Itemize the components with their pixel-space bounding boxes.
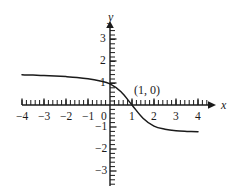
graph-figure: −4 −3 −2 −1 0 1 2 3 4 3 2 1 −1 −2 −3 x y… bbox=[0, 0, 243, 192]
x-tick-label--3: −3 bbox=[38, 111, 50, 123]
plot-canvas bbox=[0, 0, 243, 192]
y-tick-label--1: −1 bbox=[95, 121, 107, 133]
y-tick-label-1: 1 bbox=[100, 77, 106, 89]
x-tick-label--4: −4 bbox=[16, 111, 28, 123]
x-tick-label--2: −2 bbox=[60, 111, 72, 123]
y-tick-label--3: −3 bbox=[95, 165, 107, 177]
x-tick-label--1: −1 bbox=[82, 111, 94, 123]
y-axis bbox=[106, 21, 114, 186]
x-intercept-label: (1, 0) bbox=[134, 84, 160, 96]
y-tick-label-2: 2 bbox=[100, 55, 106, 67]
y-tick-label-3: 3 bbox=[100, 33, 106, 45]
x-tick-label-1: 1 bbox=[129, 111, 135, 123]
y-tick-label--2: −2 bbox=[95, 143, 107, 155]
x-tick-label-3: 3 bbox=[173, 111, 179, 123]
y-axis-label: y bbox=[108, 11, 113, 23]
x-axis-label: x bbox=[221, 99, 226, 111]
y-axis-minor-ticks bbox=[110, 31, 115, 185]
x-tick-label-2: 2 bbox=[151, 111, 157, 123]
x-tick-label-4: 4 bbox=[195, 111, 201, 123]
